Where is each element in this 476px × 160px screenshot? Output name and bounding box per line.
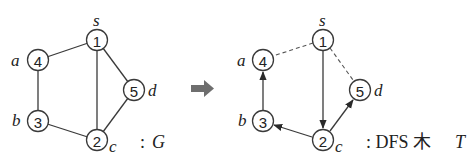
svg-text:1: 1 bbox=[319, 33, 327, 50]
caption-t-symbol: T bbox=[455, 132, 467, 152]
transform-arrow-icon bbox=[191, 80, 214, 97]
tree-edge-2-3 bbox=[274, 125, 312, 137]
back-edge-1-4 bbox=[273, 43, 313, 56]
node-5: 5 d bbox=[124, 80, 158, 101]
node-label-c: c bbox=[109, 137, 117, 156]
back-edge-1-5 bbox=[330, 48, 353, 80]
svg-text:4: 4 bbox=[259, 53, 267, 70]
tree-node-label-c: c bbox=[335, 137, 343, 156]
svg-text:5: 5 bbox=[130, 83, 138, 100]
node-1: 1 s bbox=[87, 11, 108, 51]
tree-node-1: 1 s bbox=[313, 11, 334, 51]
dfs-tree: 1 s 4 a 3 b 2 c 5 d : DFS 木 T bbox=[237, 11, 467, 156]
tree-node-5: 5 d bbox=[350, 80, 384, 101]
node-4: 4 a bbox=[11, 50, 49, 71]
node-label-d: d bbox=[148, 81, 157, 100]
tree-node-2: 2 c bbox=[313, 130, 344, 156]
tree-node-label-b: b bbox=[238, 111, 247, 130]
svg-text:3: 3 bbox=[259, 114, 267, 131]
node-3: 3 b bbox=[12, 111, 49, 132]
caption-g-symbol: G bbox=[152, 132, 165, 152]
node-label-b: b bbox=[12, 111, 21, 130]
node-label-s: s bbox=[93, 11, 100, 30]
tree-node-label-a: a bbox=[237, 51, 246, 70]
tree-node-4: 4 a bbox=[237, 50, 274, 71]
caption-t-prefix: : DFS 木 bbox=[366, 132, 431, 152]
caption-g-colon: : bbox=[140, 132, 145, 152]
svg-text:1: 1 bbox=[93, 33, 101, 50]
svg-text:2: 2 bbox=[93, 133, 101, 150]
svg-text:5: 5 bbox=[356, 83, 364, 100]
graph-g: 1 s 4 a 3 b 2 c 5 d : G bbox=[11, 11, 165, 156]
svg-text:3: 3 bbox=[34, 114, 42, 131]
tree-node-label-d: d bbox=[374, 81, 383, 100]
node-label-a: a bbox=[11, 51, 20, 70]
tree-node-label-s: s bbox=[319, 11, 326, 30]
svg-text:2: 2 bbox=[319, 133, 327, 150]
diagram-canvas: 1 s 4 a 3 b 2 c 5 d : G bbox=[0, 0, 476, 160]
node-2: 2 c bbox=[87, 130, 118, 156]
tree-edge-2-5 bbox=[330, 100, 353, 131]
tree-node-3: 3 b bbox=[238, 111, 274, 132]
svg-text:4: 4 bbox=[34, 53, 42, 70]
